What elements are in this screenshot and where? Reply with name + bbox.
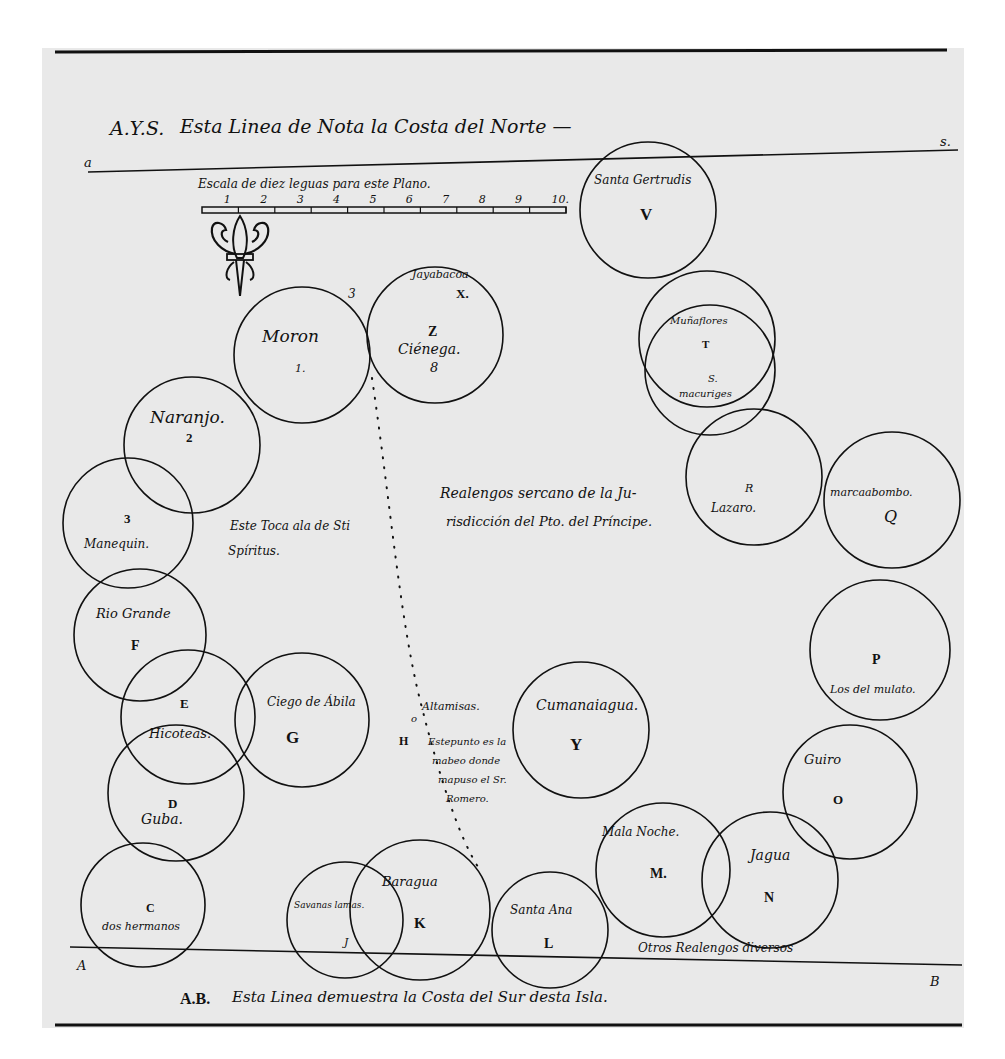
site-letter-O: O	[833, 792, 843, 807]
site-name-J: Savanas lamas.	[294, 900, 364, 910]
scale-tick-label: 8	[479, 193, 486, 206]
center-note-line1: Realengos sercano de la Ju-	[439, 485, 637, 501]
circle-L	[492, 872, 608, 988]
site-letter-E: E	[180, 696, 189, 711]
site-name-2: Naranjo.	[149, 407, 225, 427]
scale-tick-label: 3	[297, 193, 304, 206]
circle-Q	[824, 432, 960, 568]
scale-tick-label: 2	[259, 193, 267, 206]
north-heading-prefix: A.Y.S.	[108, 117, 164, 139]
site-name-M: Mala Noche.	[601, 825, 679, 839]
site-name-X: Jayabacoa	[410, 268, 469, 281]
site-letter-R: R	[744, 482, 753, 495]
circle-2	[124, 377, 260, 513]
circle-K	[350, 840, 490, 980]
fleur-de-lis-icon	[212, 216, 268, 296]
south-coast-line	[70, 947, 962, 965]
circle-N	[702, 812, 838, 948]
circle-1	[234, 287, 370, 423]
site-name-L: Santa Ana	[510, 903, 572, 917]
scale-tick-label: 9	[515, 193, 522, 206]
altamisas-title: Altamisas.	[421, 700, 480, 713]
site-name-E: Hicoteas.	[148, 726, 211, 741]
site-letter-J: J	[342, 936, 349, 949]
site-letter-Y: Y	[570, 735, 582, 754]
realengos-map: A.Y.S. Esta Linea de Nota la Costa del N…	[0, 0, 1005, 1059]
site-letter-X: X.	[456, 286, 469, 301]
altamisas-line2: mabeo donde	[432, 755, 500, 766]
site-name-N: Jagua	[747, 847, 790, 863]
site-name-P: Los del mulato.	[829, 683, 916, 696]
site-number-1: 3	[348, 287, 356, 301]
circle-F	[74, 569, 206, 701]
site-name-Q: marcaabombo.	[830, 486, 913, 499]
site-number-Z: 8	[430, 360, 438, 375]
site-letter-G: G	[286, 728, 299, 747]
site-name-O: Guiro	[804, 752, 841, 767]
site-name-F: Rio Grande	[95, 606, 171, 621]
site-name-Z: Ciénega.	[398, 341, 461, 357]
site-letter-P: P	[872, 652, 881, 667]
sancti-spiritus-note-line1: Este Toca ala de Sti	[229, 519, 350, 533]
scale-tick-label: 6	[406, 193, 413, 206]
circle-D	[108, 725, 244, 861]
site-letter-T: T	[702, 338, 710, 350]
site-name-D: Guba.	[141, 811, 183, 827]
top-border-rule	[55, 50, 947, 52]
site-letter-1: 1.	[295, 362, 306, 375]
circle-O	[783, 725, 917, 859]
circle-Y	[513, 662, 649, 798]
site-letter-K: K	[414, 915, 426, 931]
other-realengos-note: Otros Realengos diversos	[638, 941, 793, 955]
site-letter-L: L	[544, 936, 553, 951]
site-name-R: Lazaro.	[710, 501, 756, 515]
site-name-G: Ciego de Ábila	[267, 694, 356, 709]
scale-tick-label: 1	[224, 193, 231, 206]
scale-tick-label: 5	[369, 193, 376, 206]
north-coast-line	[88, 150, 958, 172]
altamisas-line1: Estepunto es la	[427, 736, 506, 747]
site-name-V: Santa Gertrudis	[594, 173, 691, 187]
site-letter-M: M.	[650, 866, 667, 881]
altamisas-marker-H: H	[399, 734, 409, 748]
site-name-K: Baragua	[381, 874, 438, 889]
north-heading-text: Esta Linea de Nota la Costa del Norte —	[179, 115, 571, 137]
site-letter-D: D	[168, 796, 177, 811]
site-letter-Q: Q	[884, 507, 897, 526]
realengo-circles	[63, 142, 960, 988]
altamisas-line3: mapuso el Sr.	[438, 774, 507, 785]
site-name-S: macuriges	[679, 388, 732, 399]
south-heading-prefix: A.B.	[180, 990, 210, 1007]
altamisas-line4: Romero.	[445, 793, 489, 804]
site-letter-C: C	[146, 901, 155, 915]
site-letter-2: 2	[186, 430, 193, 445]
circle-R	[686, 409, 822, 545]
site-letter-3: 3	[124, 511, 131, 526]
south-heading-text: Esta Linea demuestra la Costa del Sur de…	[231, 988, 608, 1006]
north-left-marker: a	[84, 155, 92, 170]
circle-P	[810, 580, 950, 720]
north-right-marker: s.	[940, 134, 951, 149]
site-name-C: dos hermanos	[102, 920, 180, 933]
site-name-T: Muñaflores	[669, 315, 728, 326]
site-letter-Z: Z	[428, 324, 437, 339]
site-letter-S: S.	[708, 373, 718, 384]
scale-tick-label: 10.	[551, 193, 569, 206]
scale-bar: 12345678910.	[202, 193, 569, 213]
south-left-marker: A	[76, 958, 86, 973]
center-note-line2: risdicción del Pto. del Príncipe.	[446, 514, 652, 529]
altamisas-circle-mark: o	[411, 713, 417, 724]
site-letter-F: F	[131, 638, 140, 653]
south-right-marker: B	[929, 974, 940, 989]
site-letter-V: V	[640, 205, 653, 224]
scale-caption: Escala de diez leguas para este Plano.	[197, 177, 431, 191]
site-name-1: Moron	[261, 326, 319, 346]
scale-tick-label: 7	[442, 193, 449, 206]
scale-tick-label: 4	[332, 193, 340, 206]
sancti-spiritus-note-line2: Spíritus.	[228, 544, 280, 558]
site-letter-N: N	[764, 890, 774, 905]
site-name-Y: Cumanaiagua.	[536, 697, 638, 713]
site-name-3: Manequin.	[83, 537, 149, 551]
